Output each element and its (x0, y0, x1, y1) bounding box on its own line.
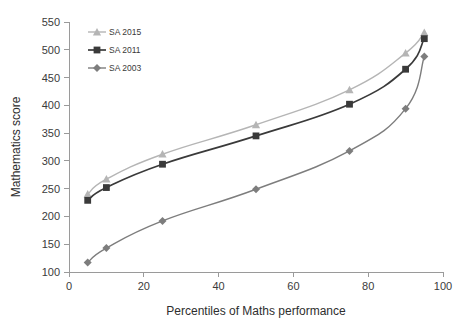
y-tick-label: 400 (42, 99, 60, 111)
series-line (88, 33, 425, 195)
x-tick-label: 20 (138, 280, 150, 292)
data-point-marker (102, 175, 110, 183)
legend-label: SA 2011 (109, 45, 141, 55)
chart-container: 550 500 450 400 350 300 250 200 150 100 … (0, 0, 453, 325)
data-point-marker (421, 35, 428, 42)
legend-marker (93, 64, 101, 72)
x-tick-label: 0 (66, 280, 72, 292)
data-point-marker (159, 161, 166, 168)
y-tick-label: 550 (42, 16, 60, 28)
y-tick-label: 100 (42, 266, 60, 278)
x-tick-label: 40 (212, 280, 224, 292)
series-line (88, 56, 425, 262)
y-axis-ticks (64, 22, 69, 272)
series-sa-2011 (84, 35, 427, 203)
y-tick-label: 150 (42, 238, 60, 250)
y-axis-tick-labels: 550 500 450 400 350 300 250 200 150 100 (42, 16, 60, 278)
data-point-marker (346, 147, 354, 155)
data-point-marker (345, 86, 353, 94)
legend-marker (94, 47, 101, 54)
y-tick-label: 200 (42, 210, 60, 222)
data-point-marker (159, 217, 167, 225)
data-point-marker (402, 66, 409, 73)
x-axis-tick-labels: 0 20 40 60 80 100 (66, 280, 452, 292)
y-tick-label: 350 (42, 127, 60, 139)
data-point-marker (420, 52, 428, 60)
y-axis-title: Mathematics score (9, 96, 23, 197)
x-tick-label: 60 (287, 280, 299, 292)
data-point-marker (102, 244, 110, 252)
data-point-marker (253, 132, 260, 139)
chart-legend: SA 2015SA 2011SA 2003 (88, 27, 141, 73)
legend-label: SA 2003 (109, 63, 141, 73)
y-tick-label: 300 (42, 155, 60, 167)
y-tick-label: 500 (42, 44, 60, 56)
x-tick-label: 100 (434, 280, 452, 292)
x-tick-label: 80 (362, 280, 374, 292)
legend-label: SA 2015 (109, 27, 141, 37)
data-point-marker (252, 185, 260, 193)
data-point-marker (420, 28, 428, 36)
series-sa-2003 (84, 52, 429, 266)
line-chart: 550 500 450 400 350 300 250 200 150 100 … (0, 0, 453, 325)
x-axis-ticks (69, 272, 443, 277)
y-tick-label: 250 (42, 183, 60, 195)
data-point-marker (346, 101, 353, 108)
data-point-marker (103, 184, 110, 191)
data-point-marker (84, 197, 91, 204)
x-axis-title: Percentiles of Maths performance (166, 304, 346, 318)
y-tick-label: 450 (42, 72, 60, 84)
